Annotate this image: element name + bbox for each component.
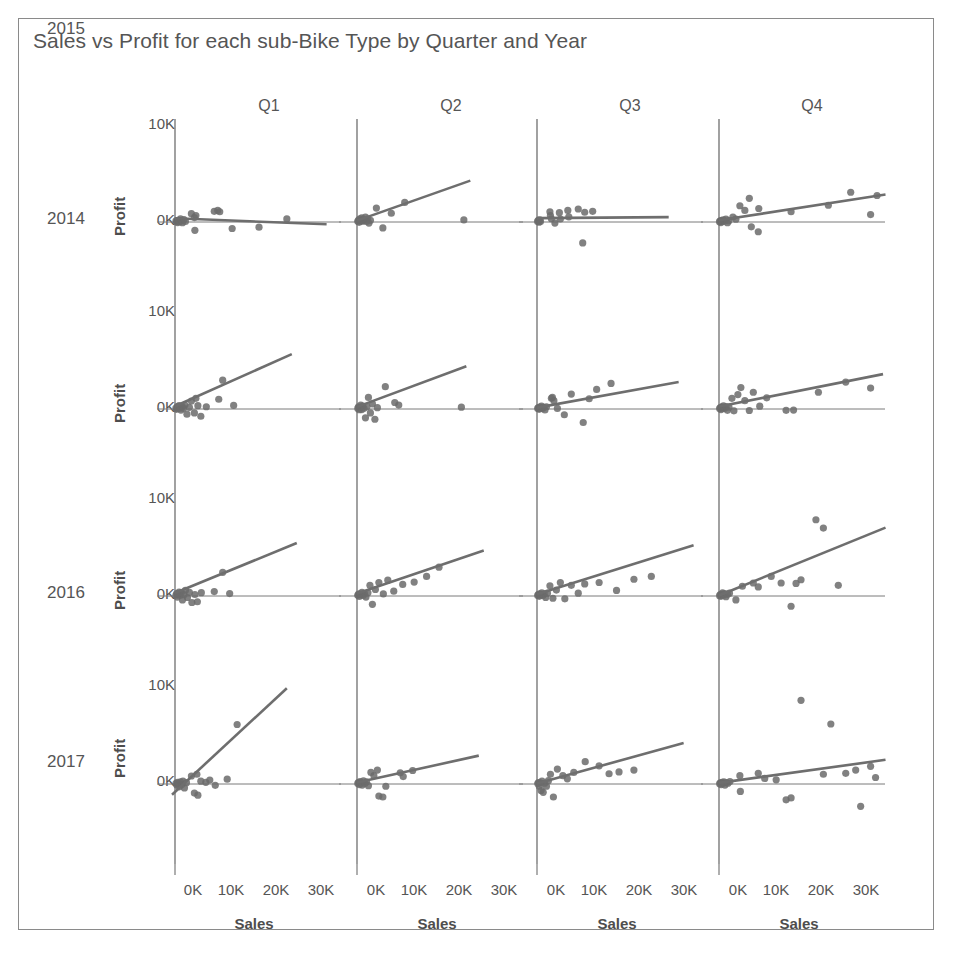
scatter-point — [358, 779, 365, 786]
scatter-point — [192, 395, 199, 402]
scatter-point — [719, 218, 726, 225]
scatter-point — [179, 403, 186, 410]
scatter-point — [194, 598, 201, 605]
scatter-point — [732, 216, 739, 223]
ytick-2014-10k: 10K — [131, 115, 175, 132]
scatter-point — [178, 589, 185, 596]
scatter-point — [354, 405, 361, 412]
scatter-point — [229, 225, 236, 232]
scatter-point — [230, 402, 237, 409]
scatter-point — [367, 217, 374, 224]
scatter-point — [718, 779, 725, 786]
scatter-point — [718, 217, 725, 224]
scatter-point — [724, 591, 731, 598]
scatter-point — [177, 215, 184, 222]
panel-2017-Q1 — [172, 688, 287, 799]
ytick-2016-0k: 0K — [131, 585, 175, 602]
scatter-point — [363, 778, 370, 785]
scatter-point — [835, 582, 842, 589]
xtick-q1-0k: 0K — [176, 881, 210, 898]
scatter-point — [176, 404, 183, 411]
scatter-point — [724, 780, 731, 787]
scatter-point — [194, 402, 201, 409]
scatter-point — [435, 564, 442, 571]
scatter-point — [717, 404, 724, 411]
scatter-point — [182, 587, 189, 594]
scatter-point — [717, 779, 724, 786]
scatter-point — [718, 781, 725, 788]
scatter-point — [719, 405, 726, 412]
scatter-point — [737, 788, 744, 795]
scatter-point — [178, 217, 185, 224]
scatter-point — [842, 770, 849, 777]
scatter-point — [720, 402, 727, 409]
scatter-point — [605, 770, 612, 777]
scatter-point — [355, 217, 362, 224]
scatter-point — [570, 769, 577, 776]
scatter-point — [723, 779, 730, 786]
scatter-point — [746, 195, 753, 202]
scatter-point — [357, 778, 364, 785]
scatter-point — [388, 210, 395, 217]
scatter-point — [852, 766, 859, 773]
scatter-point — [615, 768, 622, 775]
scatter-point — [797, 697, 804, 704]
trend-line — [537, 382, 679, 408]
scatter-point — [867, 763, 874, 770]
panel-2016-Q2 — [354, 550, 484, 608]
scatter-point — [718, 591, 725, 598]
scatter-point — [724, 219, 731, 226]
chart-frame: Sales vs Profit for each sub-Bike Type b… — [18, 18, 934, 930]
row-label-2016: 2016 — [27, 583, 105, 603]
trend-line — [719, 374, 883, 406]
scatter-point — [728, 395, 735, 402]
scatter-point — [755, 583, 762, 590]
scatter-point — [371, 416, 378, 423]
scatter-point — [400, 773, 407, 780]
trend-line — [172, 688, 287, 794]
scatter-point — [717, 219, 724, 226]
scatter-point — [537, 405, 544, 412]
scatter-point — [361, 217, 368, 224]
scatter-point — [197, 778, 204, 785]
scatter-point — [746, 407, 753, 414]
scatter-point — [719, 589, 726, 596]
scatter-point — [537, 218, 544, 225]
xtick-q1-10k: 10K — [214, 881, 248, 898]
scatter-point — [540, 789, 547, 796]
scatter-point — [726, 778, 733, 785]
scatter-point — [549, 394, 556, 401]
scatter-point — [188, 210, 195, 217]
scatter-point — [539, 592, 546, 599]
scatter-point — [361, 590, 368, 597]
scatter-point — [535, 591, 542, 598]
scatter-point — [568, 391, 575, 398]
scatter-point — [358, 406, 365, 413]
scatter-point — [411, 578, 418, 585]
scatter-point — [397, 769, 404, 776]
scatter-point — [358, 214, 365, 221]
scatter-point — [797, 576, 804, 583]
scatter-point — [203, 403, 210, 410]
x-axis-title-q1: Sales — [194, 915, 314, 930]
scatter-point — [536, 216, 543, 223]
scatter-point — [741, 397, 748, 404]
scatter-point — [726, 590, 733, 597]
scatter-point — [197, 413, 204, 420]
scatter-point — [374, 766, 381, 773]
trend-line — [175, 354, 292, 406]
scatter-point — [589, 208, 596, 215]
scatter-point — [541, 780, 548, 787]
scatter-point — [717, 591, 724, 598]
scatter-point — [354, 780, 361, 787]
trend-line — [537, 743, 684, 783]
panel-2017-Q4 — [716, 697, 885, 810]
trend-line — [175, 543, 297, 593]
scatter-point — [536, 590, 543, 597]
scatter-point — [224, 776, 231, 783]
scatter-point — [719, 780, 726, 787]
scatter-point — [206, 776, 213, 783]
scatter-point — [380, 590, 387, 597]
scatter-point — [540, 404, 547, 411]
scatter-point — [188, 772, 195, 779]
